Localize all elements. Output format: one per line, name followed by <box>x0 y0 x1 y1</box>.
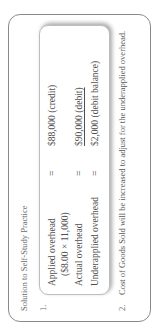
overhead-calculation-box: Applied overhead = $88,000 (credit) ($8.… <box>39 25 110 295</box>
page: Solution to Self-Study Practice 1. Appli… <box>0 0 159 334</box>
actual-overhead-label: Actual overhead <box>74 223 84 286</box>
applied-overhead-formula: ($8.00 × 11,000) <box>60 212 70 276</box>
underapplied-overhead-label: Underapplied overhead <box>90 197 100 286</box>
solution-title: Solution to Self-Study Practice <box>19 205 29 311</box>
item-1-number: 1. <box>38 305 48 311</box>
applied-overhead-value: $88,000 (credit) <box>47 85 57 146</box>
solution-box: Solution to Self-Study Practice 1. Appli… <box>8 14 151 322</box>
underapplied-overhead-value: $2,000 (debit balance) <box>90 61 100 146</box>
item-2-statement: Cost of Goods Sold will be increased to … <box>117 30 128 295</box>
equals-sign: = <box>47 171 57 176</box>
equals-sign: = <box>74 171 84 176</box>
equals-sign: = <box>90 171 100 176</box>
item-2-number: 2. <box>117 305 127 311</box>
actual-overhead-value: $90,000 (debit) <box>74 87 84 146</box>
applied-overhead-label: Applied overhead <box>47 218 57 286</box>
applied-overhead-formula-row: ($8.00 × 11,000) <box>60 212 70 276</box>
rotated-content: Solution to Self-Study Practice 1. Appli… <box>0 0 159 334</box>
